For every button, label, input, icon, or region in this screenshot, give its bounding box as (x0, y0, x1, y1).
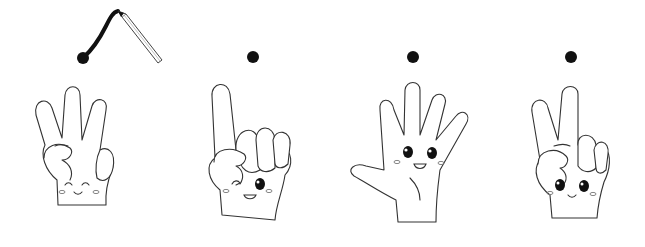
pencil-stroke (83, 11, 118, 58)
dot-3 (407, 51, 419, 63)
dot-4 (565, 51, 577, 63)
eye (255, 178, 265, 190)
eye (555, 179, 565, 191)
dot-1 (77, 52, 89, 64)
eye (427, 147, 437, 159)
pencil-stroke-group (77, 11, 162, 64)
hand-three-fingers (36, 87, 114, 205)
hand-two-fingers (532, 87, 610, 219)
hand-five-fingers (351, 83, 468, 223)
illustration (0, 0, 645, 247)
dot-2 (247, 51, 259, 63)
pencil-icon (118, 11, 162, 63)
hand-one-finger (209, 84, 291, 220)
eye (579, 180, 589, 192)
eye (403, 146, 413, 158)
